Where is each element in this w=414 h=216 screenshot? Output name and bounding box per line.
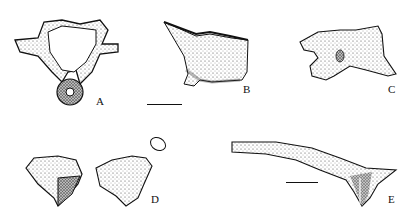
panel-label-a: A: [96, 96, 104, 107]
scale-bar-e: [286, 182, 318, 183]
specimen-a: [15, 20, 118, 105]
specimen-figure: A B C D E: [0, 0, 414, 216]
specimen-b: [164, 22, 248, 86]
panel-label-d: D: [151, 194, 159, 205]
specimen-e: [232, 142, 396, 206]
panel-label-e: E: [388, 194, 395, 205]
illustration-canvas: [0, 0, 414, 216]
panel-label-b: B: [243, 84, 250, 95]
scale-bar-b: [147, 104, 182, 105]
specimen-d-left: [26, 156, 82, 206]
panel-label-c: C: [388, 84, 395, 95]
specimen-c: [300, 26, 396, 80]
